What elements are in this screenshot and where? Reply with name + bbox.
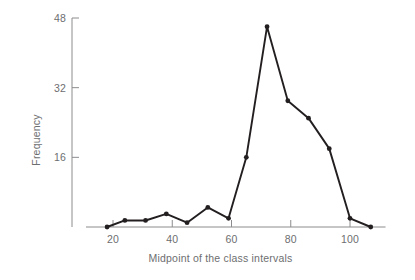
data-point-marker [164, 212, 169, 217]
frequency-polygon-chart: 163248 20406080100 Frequency Midpoint of… [0, 0, 415, 280]
data-point-marker [226, 216, 231, 221]
data-series-line [107, 27, 371, 227]
x-tick-label: 40 [166, 233, 178, 245]
data-point-marker [205, 205, 210, 210]
data-point-marker [244, 155, 249, 160]
y-tick-label: 48 [38, 12, 66, 24]
y-tick-label: 16 [38, 151, 66, 163]
x-tick-label: 80 [285, 233, 297, 245]
data-point-marker [306, 116, 311, 121]
x-tick-label: 20 [107, 233, 119, 245]
data-point-marker [348, 216, 353, 221]
data-point-marker [285, 98, 290, 103]
x-axis-title-wrapper: Midpoint of the class intervals [0, 252, 415, 264]
data-point-marker [265, 24, 270, 29]
x-tick-label: 100 [341, 233, 359, 245]
data-point-marker [368, 225, 373, 230]
data-point-marker [122, 218, 127, 223]
y-axis-title: Frequency [30, 114, 42, 165]
data-point-markers [105, 24, 373, 229]
data-point-marker [105, 225, 110, 230]
chart-axes [72, 18, 386, 227]
y-tick-label: 32 [38, 82, 66, 94]
data-point-marker [327, 146, 332, 151]
data-point-marker [143, 218, 148, 223]
x-tick-label: 60 [225, 233, 237, 245]
x-axis-title: Midpoint of the class intervals [149, 252, 293, 264]
chart-tick-marks [72, 18, 350, 227]
data-point-marker [185, 220, 190, 225]
